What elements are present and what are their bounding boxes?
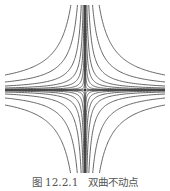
hyperbola-curve bbox=[89, 5, 165, 86]
hyperbola-curve bbox=[99, 105, 165, 173]
hyperbola-curve bbox=[5, 90, 85, 173]
hyperbola-curve bbox=[93, 5, 165, 82]
hyperbola-curve bbox=[86, 5, 165, 89]
hyperbola-curve bbox=[87, 5, 165, 88]
fixed-point bbox=[84, 89, 86, 91]
hyperbola-curve bbox=[5, 5, 81, 86]
hyperbola-curve bbox=[5, 91, 84, 173]
hyperbola-curve bbox=[5, 105, 71, 173]
hyperbola-curve bbox=[93, 98, 165, 173]
hyperbolic-fixed-point-diagram bbox=[0, 0, 170, 175]
hyperbola-curve bbox=[86, 91, 165, 173]
hyperbola-curve bbox=[5, 98, 77, 173]
hyperbola-curve bbox=[87, 92, 165, 173]
hyperbola-curve bbox=[5, 94, 81, 173]
hyperbola-curve bbox=[5, 5, 84, 89]
hyperbola-curve bbox=[5, 5, 83, 88]
hyperbola-curve bbox=[89, 94, 165, 173]
hyperbola-curve bbox=[5, 92, 83, 173]
hyperbola-curve bbox=[99, 5, 165, 75]
figure-caption: 图 12.2.1 双曲不动点 bbox=[0, 174, 170, 191]
hyperbola-curve bbox=[85, 90, 165, 173]
hyperbola-curve bbox=[5, 5, 71, 75]
hyperbola-curve bbox=[5, 5, 77, 82]
